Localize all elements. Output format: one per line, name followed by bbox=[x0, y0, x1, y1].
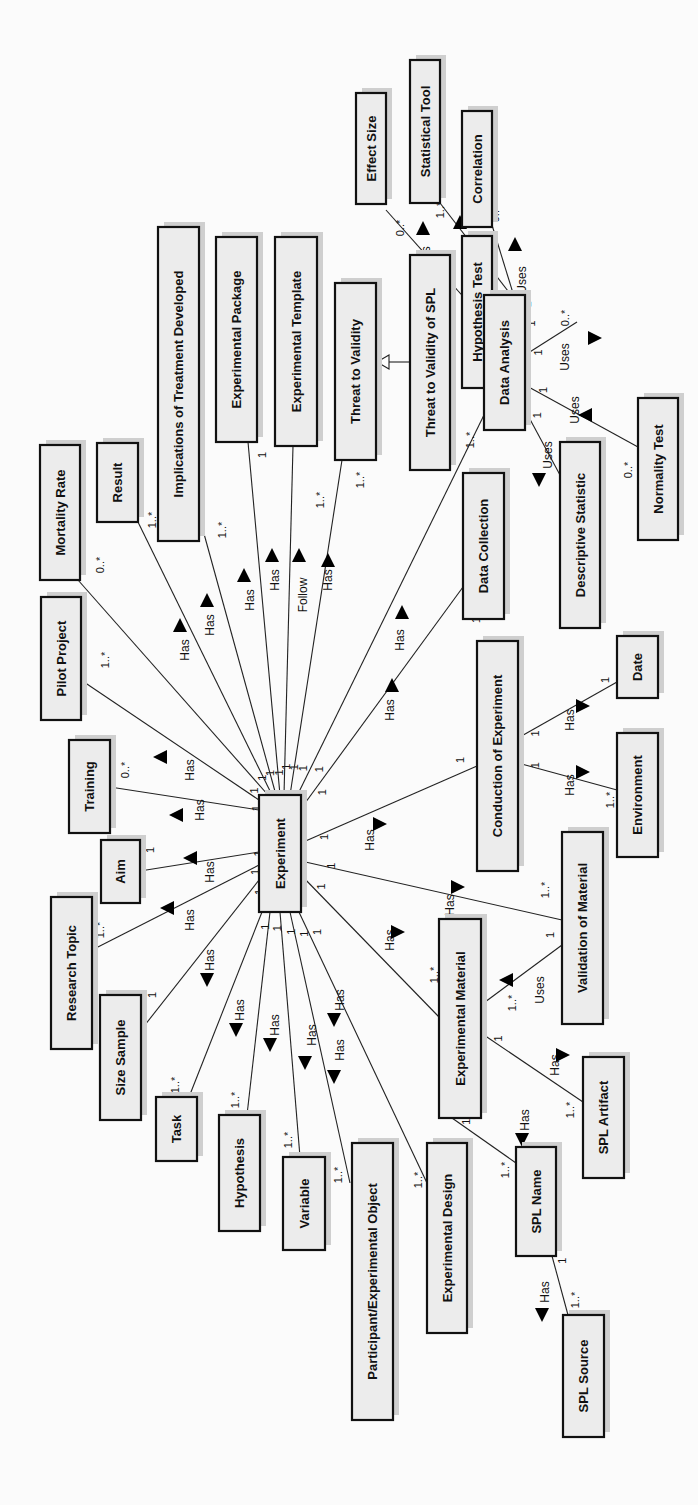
association-label: Has bbox=[203, 949, 217, 970]
multiplicity-source: 1 bbox=[297, 765, 309, 771]
direction-arrow-icon bbox=[265, 548, 279, 562]
class-label: SPL Artifact bbox=[596, 1080, 611, 1154]
direction-arrow-icon bbox=[160, 901, 174, 915]
class-validation-material[interactable]: Validation of Material bbox=[562, 827, 609, 1024]
association: Has11 bbox=[140, 847, 264, 883]
class-label: Training bbox=[82, 761, 97, 812]
class-correlation[interactable]: Correlation bbox=[462, 106, 498, 227]
direction-arrow-icon bbox=[508, 237, 522, 251]
multiplicity-source: 1 bbox=[315, 883, 327, 889]
association-label: Has bbox=[563, 709, 577, 730]
association-line bbox=[301, 861, 562, 920]
class-task[interactable]: Task bbox=[156, 1092, 203, 1161]
class-environment[interactable]: Environment bbox=[617, 728, 664, 857]
multiplicity-target: 1..* bbox=[412, 1171, 424, 1188]
multiplicity-target: 1..* bbox=[146, 511, 158, 528]
association-label: Uses bbox=[558, 343, 572, 370]
class-result[interactable]: Result bbox=[97, 438, 144, 522]
direction-arrow-icon bbox=[395, 605, 409, 619]
class-data-analysis[interactable]: Data Analysis bbox=[484, 290, 531, 430]
class-research-topic[interactable]: Research Topic bbox=[51, 892, 98, 1049]
multiplicity-source: 1 bbox=[529, 762, 541, 768]
association-label: Has bbox=[183, 909, 197, 930]
class-experimental-template[interactable]: Experimental Template bbox=[275, 232, 323, 446]
class-experiment[interactable]: Experiment bbox=[259, 790, 307, 912]
association-line bbox=[301, 875, 439, 1017]
class-label: Normality Test bbox=[651, 424, 666, 514]
association-label: Has bbox=[193, 799, 207, 820]
association-label: Has bbox=[203, 614, 217, 635]
class-spl-source[interactable]: SPL Source bbox=[563, 1310, 610, 1437]
multiplicity-target: 0..* bbox=[559, 309, 571, 326]
class-label: Data Collection bbox=[476, 499, 491, 594]
class-label: Hypothesis Test bbox=[470, 262, 485, 362]
class-aim[interactable]: Aim bbox=[101, 835, 146, 903]
class-threat-to-validity[interactable]: Threat to Validity bbox=[335, 278, 382, 460]
association-label: Follow bbox=[296, 577, 310, 612]
association: Has11..* bbox=[290, 460, 366, 795]
association-line bbox=[290, 460, 342, 795]
association: Has11..* bbox=[295, 415, 484, 800]
class-hypothesis[interactable]: Hypothesis bbox=[219, 1110, 266, 1231]
direction-arrow-icon bbox=[298, 1056, 312, 1070]
association-label: Has bbox=[321, 569, 335, 590]
class-participant[interactable]: Participant/Experimental Object bbox=[352, 1138, 399, 1420]
multiplicity-target: 1..* bbox=[282, 1131, 294, 1148]
multiplicity-target: 1..* bbox=[539, 881, 551, 898]
class-label: Experimental Package bbox=[229, 270, 244, 408]
class-label: Correlation bbox=[470, 134, 485, 203]
association-label: Has bbox=[203, 861, 217, 882]
multiplicity-target: 1..* bbox=[604, 791, 616, 808]
class-date[interactable]: Date bbox=[617, 631, 664, 698]
direction-arrow-icon bbox=[153, 750, 167, 764]
multiplicity-target: 1..* bbox=[314, 491, 326, 508]
association-label: Uses bbox=[515, 266, 529, 293]
association: Follow11..* bbox=[284, 446, 326, 795]
direction-arrow-icon bbox=[556, 1048, 570, 1062]
association-line bbox=[301, 766, 477, 843]
multiplicity-target: 0..* bbox=[394, 219, 406, 236]
multiplicity-source: 1 bbox=[259, 924, 271, 930]
association-line bbox=[198, 512, 276, 795]
direction-arrow-icon bbox=[263, 1038, 277, 1052]
class-data-collection[interactable]: Data Collection bbox=[463, 468, 510, 619]
class-conduction[interactable]: Conduction of Experiment bbox=[477, 636, 524, 871]
class-mortality-rate[interactable]: Mortality Rate bbox=[40, 440, 86, 580]
association-label: Has bbox=[563, 774, 577, 795]
class-threat-spl[interactable]: Threat to Validity of SPL bbox=[410, 250, 456, 470]
class-experimental-design[interactable]: Experimental Design bbox=[427, 1138, 473, 1333]
class-label: Threat to Validity of SPL bbox=[423, 288, 438, 438]
association-label: Has bbox=[383, 699, 397, 720]
class-spl-artifact[interactable]: SPL Artifact bbox=[583, 1052, 630, 1178]
class-descriptive-statistic[interactable]: Descriptive Statistic bbox=[560, 437, 606, 628]
class-label: Participant/Experimental Object bbox=[365, 1183, 380, 1380]
class-label: Variable bbox=[297, 1179, 312, 1229]
multiplicity-target: 1 bbox=[544, 932, 556, 938]
class-pilot-project[interactable]: Pilot Project bbox=[41, 592, 87, 720]
association-label: Has bbox=[178, 639, 192, 660]
association-line bbox=[552, 1256, 568, 1315]
association-line bbox=[481, 945, 562, 1005]
multiplicity-source: 1 bbox=[492, 1035, 504, 1041]
class-implications[interactable]: Implications of Treatment Developed bbox=[158, 222, 205, 541]
association-label: Has bbox=[333, 1039, 347, 1060]
multiplicity-target: 0..* bbox=[119, 761, 131, 778]
class-effect-size[interactable]: Effect Size bbox=[356, 88, 392, 204]
direction-arrow-icon bbox=[576, 765, 590, 779]
direction-arrow-icon bbox=[535, 1308, 549, 1322]
direction-arrow-icon bbox=[391, 925, 405, 939]
class-size-sample[interactable]: Size Sample bbox=[100, 990, 147, 1120]
association-line bbox=[300, 587, 463, 810]
class-normality-test[interactable]: Normality Test bbox=[638, 393, 684, 540]
class-label: Experimental Material bbox=[453, 951, 468, 1085]
class-variable[interactable]: Variable bbox=[283, 1152, 331, 1250]
class-statistical-tool[interactable]: Statistical Tool bbox=[410, 55, 446, 203]
multiplicity-source: 1 bbox=[248, 787, 260, 793]
class-experimental-material[interactable]: Experimental Material bbox=[439, 914, 487, 1118]
class-label: SPL Source bbox=[576, 1340, 591, 1413]
association-label: Has bbox=[233, 999, 247, 1020]
class-spl-name[interactable]: SPL Name bbox=[516, 1142, 562, 1256]
class-experimental-package[interactable]: Experimental Package bbox=[216, 232, 263, 442]
class-training[interactable]: Training bbox=[69, 735, 116, 833]
multiplicity-source: 1 bbox=[313, 766, 325, 772]
